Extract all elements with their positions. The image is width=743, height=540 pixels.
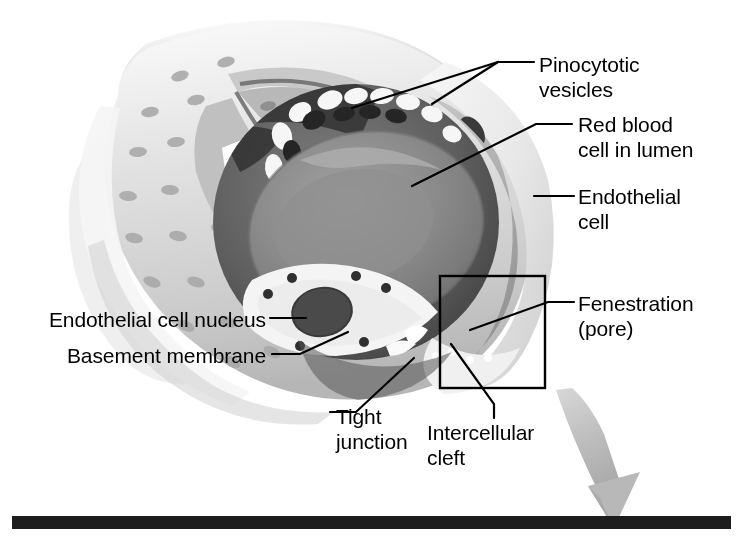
capillary-diagram: Pinocytotic vesicles Red blood cell in l…: [0, 0, 743, 540]
magnification-arrow: [556, 388, 640, 528]
label-red-blood-cell: Red blood cell in lumen: [578, 112, 693, 162]
label-tight-junction: Tight junction: [336, 404, 408, 454]
label-endothelial-cell-nucleus: Endothelial cell nucleus: [49, 307, 266, 332]
label-pinocytotic-vesicles: Pinocytotic vesicles: [539, 52, 639, 102]
label-endothelial-cell: Endothelial cell: [578, 184, 681, 234]
label-intercellular-cleft: Intercellular cleft: [427, 420, 534, 470]
page-rule: [12, 516, 731, 529]
label-basement-membrane: Basement membrane: [67, 343, 266, 368]
label-fenestration: Fenestration (pore): [578, 291, 694, 341]
